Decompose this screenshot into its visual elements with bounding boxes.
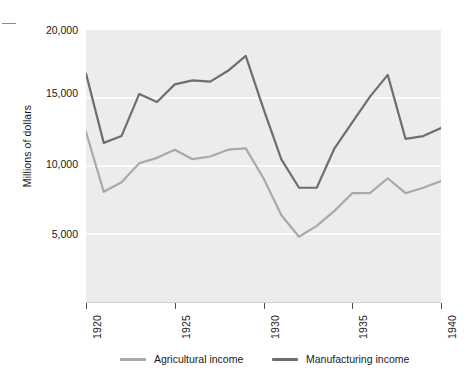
y-tick-label: 10,000 [34,158,78,170]
x-tick-mark [352,303,353,309]
x-tick-mark [86,303,87,309]
legend-label: Agricultural income [154,353,243,365]
y-axis-tick-labels: 20,000 15,000 10,000 5,000 [30,0,78,320]
x-tick-label: 1930 [269,315,281,339]
corner-tick-mark [2,23,16,24]
chart-figure: Millions of dollars 20,000 15,000 10,000… [0,0,465,380]
x-tick-label: 1920 [91,315,103,339]
x-tick-label: 1940 [446,315,458,339]
line-chart-svg [86,30,441,302]
plot-area [86,30,441,302]
series-line-agricultural-income [86,132,441,237]
y-tick-label: 5,000 [34,228,78,240]
chart-legend: Agricultural income Manufacturing income [86,350,441,372]
legend-entry-agricultural-income: Agricultural income [120,350,243,368]
x-tick-label: 1935 [357,315,369,339]
legend-entry-manufacturing-income: Manufacturing income [272,350,409,368]
y-tick-label: 20,000 [34,24,78,36]
x-tick-mark [264,303,265,309]
legend-label: Manufacturing income [306,353,409,365]
series-line-manufacturing-income [86,56,441,188]
y-tick-label: 15,000 [34,87,78,99]
legend-line-swatch-icon [120,358,146,361]
x-tick-label: 1925 [180,315,192,339]
x-tick-mark [175,303,176,309]
legend-line-swatch-icon [272,358,298,361]
x-tick-mark [441,303,442,309]
